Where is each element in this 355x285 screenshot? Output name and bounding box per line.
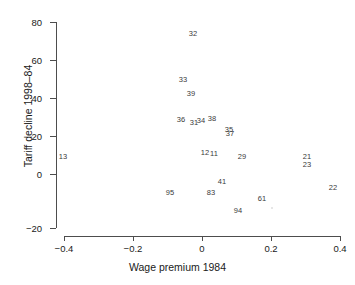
y-tick-mark (50, 60, 56, 61)
data-point-label: 22 (329, 184, 337, 192)
data-point-label: 12 (201, 149, 209, 157)
y-tick-mark (50, 98, 56, 99)
x-tick-mark (271, 236, 272, 241)
y-axis-line (56, 22, 57, 228)
y-tick-label: 0 (14, 170, 42, 180)
data-point-label: 38 (208, 115, 216, 123)
y-tick-mark (50, 174, 56, 175)
data-point-label: 61 (258, 195, 266, 203)
y-tick-mark (50, 22, 56, 23)
x-tick-label: 0 (182, 244, 222, 254)
y-tick-label: −20 (14, 224, 42, 234)
y-tick-mark (50, 228, 56, 229)
data-point-label: 36 (177, 116, 185, 124)
data-point-label: 39 (187, 90, 195, 98)
data-point-dot (272, 208, 273, 209)
y-tick-label: 40 (14, 94, 42, 104)
scatter-plot: Tariff decline 1998–84 Wage premium 1984… (0, 0, 355, 285)
x-tick-label: −0.2 (113, 244, 153, 254)
data-point-label: 34 (197, 117, 205, 125)
data-point-label: 32 (189, 30, 197, 38)
x-tick-label: 0.4 (320, 244, 355, 254)
x-tick-mark (340, 236, 341, 241)
data-point-label: 33 (179, 76, 187, 84)
y-tick-label: 20 (14, 132, 42, 142)
x-axis-title: Wage premium 1984 (0, 261, 355, 273)
x-tick-label: −0.4 (44, 244, 84, 254)
data-point-label: 94 (234, 207, 242, 215)
data-point-label: 95 (166, 189, 174, 197)
data-point-label: 11 (210, 150, 218, 158)
x-tick-mark (64, 236, 65, 241)
x-tick-mark (133, 236, 134, 241)
data-point-label: 37 (226, 130, 234, 138)
x-tick-label: 0.2 (251, 244, 291, 254)
x-tick-mark (202, 236, 203, 241)
data-point-label: 23 (303, 161, 311, 169)
y-tick-label: 60 (14, 56, 42, 66)
y-tick-mark (50, 136, 56, 137)
data-point-label: 41 (218, 178, 226, 186)
data-point-label: 29 (238, 153, 246, 161)
data-point-label: 83 (207, 189, 215, 197)
y-tick-label: 80 (14, 18, 42, 28)
data-point-label: 13 (59, 153, 67, 161)
